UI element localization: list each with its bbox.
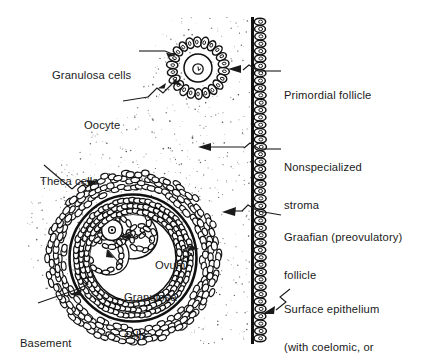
label-theca-cells: Theca cells: [40, 150, 98, 213]
label-granulosa-cells-bottom: Granulosa cells: [124, 266, 177, 360]
label-basement-membrane: Basement membrane: [20, 312, 75, 360]
label-surface-epithelium: Surface epithelium (with coelomic, or ge…: [284, 278, 388, 360]
label-oocyte: Oocyte: [84, 94, 120, 157]
ovum-nucleolus: [111, 229, 113, 231]
ovary-histology-figure: Granulosa cells Oocyte Theca cells Basem…: [0, 0, 437, 360]
surface-epithelium-group: [253, 17, 267, 344]
label-primordial-follicle: Primordial follicle: [284, 64, 371, 127]
